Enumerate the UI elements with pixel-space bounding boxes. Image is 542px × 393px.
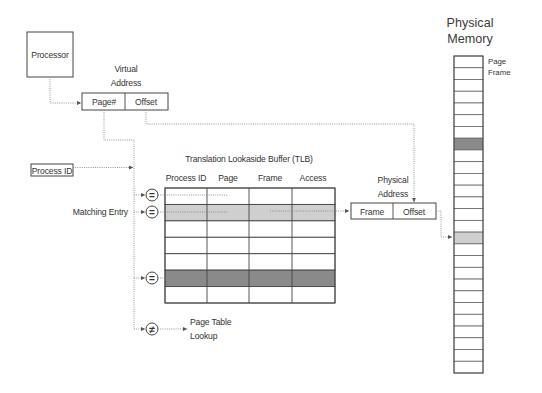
tlb-column-process-id: Process ID xyxy=(166,173,207,183)
comparator-row-0: = xyxy=(146,189,158,201)
process-id-label: Process ID xyxy=(32,166,73,176)
memory-page-frame xyxy=(454,138,483,150)
memory-page-frame xyxy=(454,150,483,162)
physical-offset-field: Offset xyxy=(403,207,426,217)
memory-page-frame xyxy=(454,162,483,174)
memory-page-frame xyxy=(454,326,483,338)
memory-page-frame xyxy=(454,115,483,127)
tlb-entry-row xyxy=(165,237,335,253)
memory-page-frame xyxy=(454,56,483,68)
tlb-column-page: Page xyxy=(218,173,238,183)
equals-symbol: = xyxy=(149,273,155,284)
tlb-entry-row xyxy=(165,221,335,237)
memory-page-frame xyxy=(454,209,483,221)
memory-page-frame xyxy=(454,68,483,80)
tlb-rows xyxy=(165,188,335,303)
equals-symbol: = xyxy=(149,190,155,201)
virtual-address-title-line1: Virtual xyxy=(114,64,137,74)
memory-page-frame xyxy=(454,279,483,291)
memory-page-frame xyxy=(454,197,483,209)
page-frame-label-line2: Frame xyxy=(488,68,511,77)
physical-memory-block: Physical Memory Page Frame xyxy=(447,16,511,373)
memory-page-frame xyxy=(454,91,483,103)
not-equal-symbol: ≠ xyxy=(149,324,155,335)
memory-page-frame xyxy=(454,338,483,350)
processor-label: Processor xyxy=(31,50,69,60)
memory-page-frame xyxy=(454,126,483,138)
physical-address-title-line1: Physical xyxy=(378,175,409,185)
offset-to-memory-arrow xyxy=(436,211,452,237)
virtual-offset-field: Offset xyxy=(135,97,158,107)
tlb-entry-row xyxy=(165,188,335,204)
memory-page-frame xyxy=(454,232,483,244)
physical-address-block: Physical Address Frame Offset xyxy=(351,175,436,219)
memory-page-frame xyxy=(454,350,483,362)
page-frame-label-line1: Page xyxy=(488,57,506,66)
memory-page-frame xyxy=(454,103,483,115)
tlb-block: Translation Lookaside Buffer (TLB) Proce… xyxy=(165,154,335,303)
tlb-column-frame: Frame xyxy=(258,173,282,183)
tlb-title: Translation Lookaside Buffer (TLB) xyxy=(185,154,313,164)
tlb-entry-row xyxy=(165,204,335,220)
physical-address-title-line2: Address xyxy=(378,189,408,199)
process-id-block: Process ID xyxy=(31,164,73,176)
physical-memory-title-line1: Physical xyxy=(447,16,494,30)
virtual-address-title-line2: Address xyxy=(111,78,141,88)
memory-page-frame xyxy=(454,220,483,232)
tlb-column-access: Access xyxy=(300,173,327,183)
tlb-entry-row xyxy=(165,287,335,303)
memory-page-frame xyxy=(454,361,483,373)
page-table-lookup-line2: Lookup xyxy=(190,331,218,341)
equals-symbol: = xyxy=(149,207,155,218)
memory-page-frame xyxy=(454,185,483,197)
memory-page-frame xyxy=(454,79,483,91)
memory-frames xyxy=(454,56,483,373)
comparator-row-5: = xyxy=(146,272,158,284)
memory-page-frame xyxy=(454,291,483,303)
comparator-miss: ≠ xyxy=(146,323,158,335)
physical-memory-title-line2: Memory xyxy=(447,32,493,46)
memory-page-frame xyxy=(454,314,483,326)
matching-entry-label: Matching Entry xyxy=(73,207,129,217)
memory-page-frame xyxy=(454,173,483,185)
memory-page-frame xyxy=(454,303,483,315)
virtual-address-block: Virtual Address Page# Offset xyxy=(82,64,168,110)
tlb-diagram: Processor Virtual Address Page# Offset P… xyxy=(0,0,542,393)
processor-to-virtual-address-arrow xyxy=(50,77,81,103)
page-table-lookup-line1: Page Table xyxy=(190,317,232,327)
tlb-entry-row xyxy=(165,270,335,286)
physical-frame-field: Frame xyxy=(360,207,384,217)
virtual-page-number-field: Page# xyxy=(92,97,116,107)
processor-block: Processor xyxy=(27,32,73,77)
memory-page-frame xyxy=(454,256,483,268)
memory-page-frame xyxy=(454,244,483,256)
comparator-row-1: = xyxy=(146,206,158,218)
diagram-svg: Processor Virtual Address Page# Offset P… xyxy=(0,0,542,393)
tlb-entry-row xyxy=(165,254,335,270)
memory-page-frame xyxy=(454,267,483,279)
page-number-bus-line xyxy=(104,110,134,329)
